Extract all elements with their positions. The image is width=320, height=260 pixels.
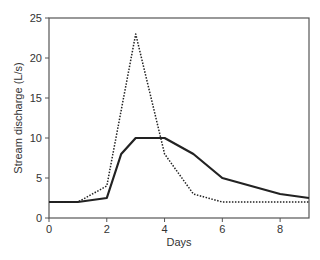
- series-dotted-line: [49, 34, 309, 202]
- y-tick-label: 10: [30, 132, 42, 144]
- x-tick-label: 2: [104, 223, 110, 235]
- y-axis-label: Stream discharge (L/s): [12, 62, 24, 173]
- x-axis-label: Days: [166, 236, 192, 248]
- series-solid-line: [49, 138, 309, 202]
- y-tick-label: 20: [30, 52, 42, 64]
- y-tick-label: 25: [30, 12, 42, 24]
- x-tick-label: 6: [219, 223, 225, 235]
- x-tick-label: 4: [161, 223, 167, 235]
- y-tick-label: 15: [30, 92, 42, 104]
- line-chart: 024680510152025 Days Stream discharge (L…: [0, 0, 320, 260]
- x-tick-label: 0: [46, 223, 52, 235]
- y-tick-label: 5: [36, 172, 42, 184]
- x-tick-label: 8: [277, 223, 283, 235]
- plot-frame: [49, 18, 309, 218]
- chart-series: [49, 34, 309, 202]
- y-tick-label: 0: [36, 212, 42, 224]
